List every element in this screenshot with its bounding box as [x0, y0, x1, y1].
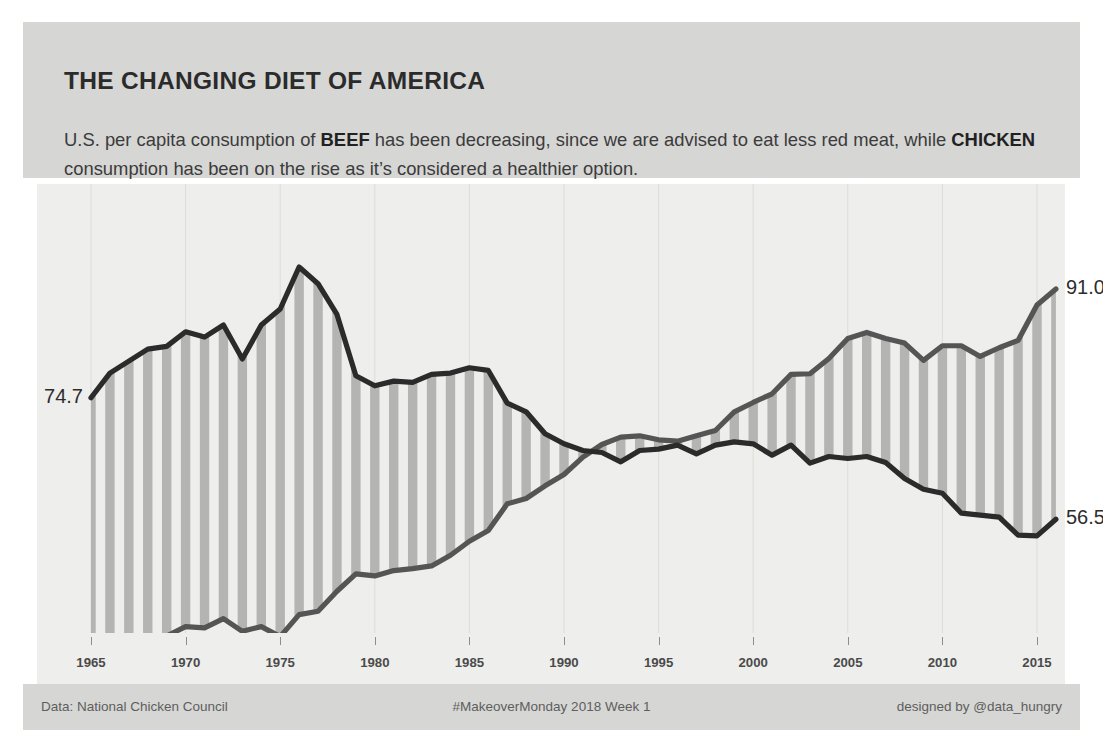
- band-stripe: [162, 184, 171, 684]
- band-stripe: [105, 184, 114, 684]
- band-stripe: [503, 184, 512, 684]
- x-axis-tick-label: 2005: [833, 655, 862, 670]
- band-stripe: [786, 184, 795, 684]
- band-stripe: [389, 184, 398, 684]
- band-stripe: [957, 184, 966, 684]
- band-stripe: [257, 184, 266, 684]
- band-stripe: [408, 184, 417, 684]
- band-stripe: [200, 184, 209, 684]
- x-axis-tick-label: 1985: [455, 655, 484, 670]
- x-axis-tick-label: 1965: [76, 655, 105, 670]
- band-stripe: [521, 184, 530, 684]
- band-stripe: [994, 184, 1003, 684]
- beef-start-value-label: 74.7: [0, 385, 83, 408]
- chicken-end-value-label: 91.0: [1066, 276, 1103, 299]
- band-stripe: [446, 184, 455, 684]
- header-band: THE CHANGING DIET OF AMERICA U.S. per ca…: [23, 22, 1080, 178]
- band-stripe: [597, 184, 606, 684]
- band-stripe: [862, 184, 871, 684]
- x-axis-tick-mark: [848, 637, 849, 645]
- band-stripe: [767, 184, 776, 684]
- subtitle-text-1: U.S. per capita consumption of: [64, 129, 321, 150]
- x-axis-tick-mark: [375, 637, 376, 645]
- footer-band: Data: National Chicken Council #Makeover…: [23, 684, 1080, 730]
- x-axis-tick-mark: [753, 637, 754, 645]
- x-axis-tick-label: 1980: [360, 655, 389, 670]
- band-stripe: [616, 184, 625, 684]
- plot-area: [37, 184, 1065, 684]
- infographic-page: THE CHANGING DIET OF AMERICA U.S. per ca…: [0, 0, 1103, 755]
- x-axis-tick-mark: [91, 637, 92, 645]
- x-axis-tick-mark: [942, 637, 943, 645]
- band-stripe: [900, 184, 909, 684]
- x-axis-tick-label: 2015: [1022, 655, 1051, 670]
- band-stripe: [219, 184, 228, 684]
- line-chart-svg: [37, 184, 1065, 684]
- band-stripe: [976, 184, 985, 684]
- chart-subtitle: U.S. per capita consumption of BEEF has …: [64, 125, 1064, 183]
- page-title: THE CHANGING DIET OF AMERICA: [64, 67, 485, 95]
- subtitle-keyword-beef: BEEF: [321, 129, 370, 150]
- x-axis-tick-label: 1975: [266, 655, 295, 670]
- x-axis-tick-label: 1995: [644, 655, 673, 670]
- x-axis-tick-label: 2000: [739, 655, 768, 670]
- band-stripe: [919, 184, 928, 684]
- band-stripe: [238, 184, 247, 684]
- x-axis-tick-mark: [564, 637, 565, 645]
- band-stripe: [1013, 184, 1022, 684]
- x-axis: 1965197019751980198519901995200020052010…: [37, 633, 1065, 684]
- band-stripe: [730, 184, 739, 684]
- subtitle-keyword-chicken: CHICKEN: [951, 129, 1035, 150]
- x-axis-tick-label: 1990: [549, 655, 578, 670]
- band-stripe: [427, 184, 436, 684]
- band-stripe: [332, 184, 341, 684]
- x-axis-tick-label: 2010: [928, 655, 957, 670]
- band-stripe: [484, 184, 493, 684]
- x-axis-tick-mark: [469, 637, 470, 645]
- striped-band-fill: [86, 184, 1065, 684]
- x-axis-tick-mark: [1037, 637, 1038, 645]
- band-stripe: [124, 184, 133, 684]
- x-axis-tick-mark: [659, 637, 660, 645]
- subtitle-text-3: consumption has been on the rise as it’s…: [64, 158, 638, 179]
- band-stripe: [824, 184, 833, 684]
- footer-project: #MakeoverMonday 2018 Week 1: [453, 699, 651, 714]
- band-stripe: [143, 184, 152, 684]
- x-axis-tick-label: 1970: [171, 655, 200, 670]
- band-stripe: [1051, 184, 1060, 684]
- x-axis-tick-mark: [280, 637, 281, 645]
- x-axis-tick-mark: [186, 637, 187, 645]
- band-stripe: [673, 184, 682, 684]
- beef-end-value-label: 56.5: [1066, 506, 1103, 529]
- series-line-beef: [91, 267, 1056, 536]
- band-stripe: [351, 184, 360, 684]
- band-stripe: [805, 184, 814, 684]
- footer-credit: designed by @data_hungry: [897, 699, 1062, 714]
- subtitle-text-2: has been decreasing, since we are advise…: [370, 129, 952, 150]
- band-stripe: [881, 184, 890, 684]
- band-stripe: [294, 184, 303, 684]
- band-stripe: [578, 184, 587, 684]
- footer-source: Data: National Chicken Council: [41, 699, 228, 714]
